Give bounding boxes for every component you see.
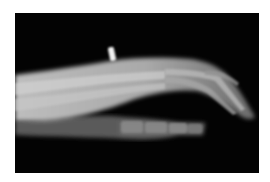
radiopaque-marker	[108, 47, 117, 62]
xray-hand-image	[15, 13, 259, 173]
xray-film	[15, 13, 259, 173]
